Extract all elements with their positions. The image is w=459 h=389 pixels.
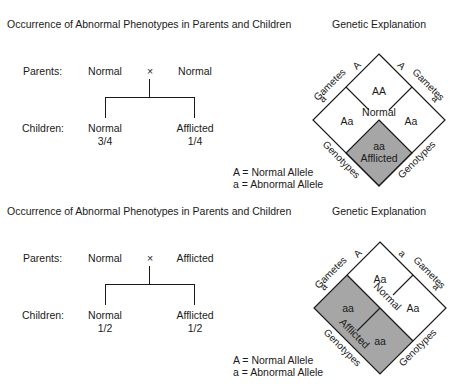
- gamete-allele: A: [350, 59, 363, 72]
- punnett-square-1: AA Aa Aa aa Normal Afflicted Gametes Gam…: [311, 54, 446, 186]
- normal-label: Normal: [362, 106, 396, 118]
- cell-genotype: aa: [374, 335, 386, 347]
- gametes-label-right: Gametes: [411, 254, 447, 290]
- cell-genotype: AA: [372, 85, 386, 97]
- cell-genotype: Aa: [405, 115, 418, 127]
- punnett-diagrams: AA Aa Aa aa Normal Afflicted Gametes Gam…: [0, 0, 459, 389]
- gametes-label-right: Gametes: [410, 66, 446, 102]
- cell-genotype: Aa: [407, 302, 420, 314]
- cell-genotype: aa: [342, 302, 354, 314]
- punnett-square-2: Aa aa Aa aa Normal Afflicted Gametes Gam…: [312, 242, 447, 374]
- cell-genotype: Aa: [341, 115, 354, 127]
- gamete-allele: a: [397, 248, 409, 260]
- cell-genotype: aa: [373, 140, 385, 152]
- afflicted-label: Afflicted: [360, 152, 397, 164]
- gamete-allele: A: [351, 247, 364, 260]
- gamete-allele: A: [395, 59, 408, 72]
- divider-line: [393, 275, 413, 295]
